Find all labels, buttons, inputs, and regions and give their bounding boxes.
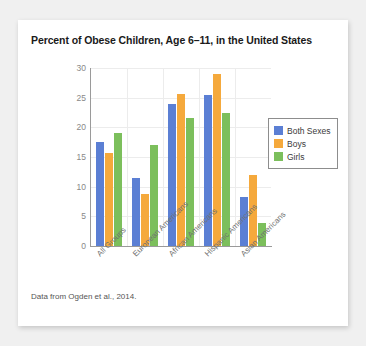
y-axis-tick-label: 15: [77, 152, 86, 162]
bar: [96, 142, 104, 246]
legend-swatch-icon: [274, 126, 283, 135]
bar: [213, 74, 221, 246]
legend-item[interactable]: Boys: [274, 137, 330, 150]
legend-swatch-icon: [274, 139, 283, 148]
y-axis-tick-label: 10: [77, 182, 86, 192]
y-axis-tick-label: 20: [77, 122, 86, 132]
legend-item[interactable]: Girls: [274, 150, 330, 163]
y-axis-tick-label: 0: [81, 241, 86, 251]
bar-group: [91, 68, 127, 246]
legend-item[interactable]: Both Sexes: [274, 124, 330, 137]
page-title: Percent of Obese Children, Age 6–11, in …: [31, 34, 312, 46]
bar: [177, 94, 185, 246]
chart-caption: Data from Ogden et al., 2014.: [31, 292, 136, 301]
chart-card: Percent of Obese Children, Age 6–11, in …: [18, 20, 348, 326]
legend-item-label: Girls: [287, 152, 304, 162]
legend-swatch-icon: [274, 152, 283, 161]
bar: [132, 178, 140, 246]
y-axis-tick-label: 25: [77, 93, 86, 103]
chart-legend: Both SexesBoysGirls: [268, 118, 338, 169]
bar-group: [127, 68, 163, 246]
bar: [105, 153, 113, 246]
legend-item-label: Boys: [287, 139, 306, 149]
y-axis-tick-label: 30: [77, 63, 86, 73]
y-axis-tick-label: 5: [81, 211, 86, 221]
legend-item-label: Both Sexes: [287, 126, 330, 136]
